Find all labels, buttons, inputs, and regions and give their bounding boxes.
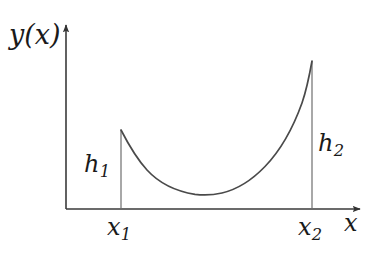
x2-tick-label: x2: [298, 215, 322, 239]
y-axis-label-var: x: [35, 19, 50, 50]
h2-label-base: h: [318, 129, 333, 157]
x1-tick-label: x1: [107, 215, 131, 239]
h2-label-subscript: 2: [334, 141, 344, 160]
x-axis-label: x: [344, 211, 358, 235]
y-axis-label-func: y: [9, 19, 24, 50]
figure-canvas: y(x) h1 h2 x1 x2 x: [0, 0, 381, 256]
h2-label: h2: [318, 131, 344, 155]
x2-label-base: x: [298, 213, 312, 241]
h1-label-subscript: 1: [100, 162, 110, 181]
x2-label-subscript: 2: [312, 225, 322, 244]
h1-label-base: h: [84, 150, 99, 178]
y-axis-label-close-paren: ): [50, 19, 61, 50]
x1-label-subscript: 1: [121, 225, 131, 244]
x1-label-base: x: [107, 213, 121, 241]
curve-yx: [121, 61, 312, 195]
h1-label: h1: [84, 152, 110, 176]
y-axis-label-open-paren: (: [24, 19, 35, 50]
y-axis-label: y(x): [9, 21, 61, 48]
